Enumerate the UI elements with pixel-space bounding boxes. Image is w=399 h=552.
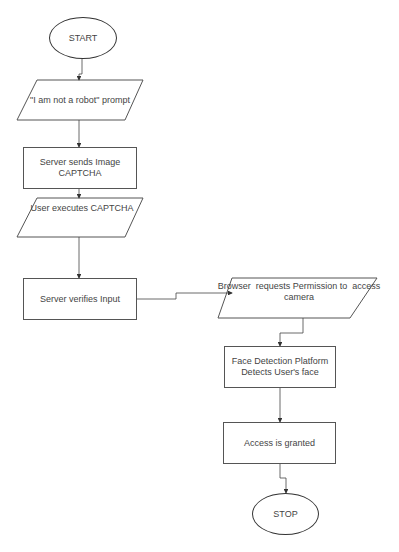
stop-terminator: STOP [252,493,319,535]
face-detection-process: Face Detection Platform Detects User's f… [224,346,336,388]
verify-process: Server verifies Input [23,278,137,320]
face-line-1: Face Detection Platform [232,356,329,367]
verify-label: Server verifies Input [40,294,120,305]
prompt-node: "I am not a robot" prompt [20,80,140,120]
permission-line-2: camera [284,292,314,303]
granted-label: Access is granted [244,438,315,449]
access-granted-process: Access is granted [223,422,336,464]
stop-label: STOP [273,509,297,520]
execute-node: User executes CAPTCHA [22,198,142,218]
send-captcha-line-2: CAPTCHA [58,168,101,179]
send-captcha-line-1: Server sends Image [40,157,121,168]
execute-label: User executes CAPTCHA [30,203,133,214]
prompt-label: "I am not a robot" prompt [30,95,130,106]
face-line-2: Detects User's face [241,367,319,378]
start-label: START [69,33,98,44]
start-terminator: START [49,17,117,59]
permission-node: Browser requests Permission to access ca… [225,280,373,304]
permission-line-1: Browser requests Permission to access [218,281,381,292]
send-captcha-process: Server sends Image CAPTCHA [23,147,137,189]
